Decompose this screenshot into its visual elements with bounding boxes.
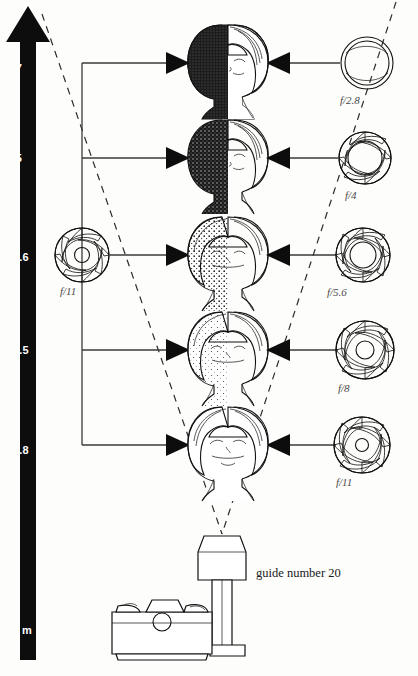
figure-canvas: 7 5 3.6 2.5 1.8 m <box>0 0 418 676</box>
face-row-3 <box>188 217 268 311</box>
arrow-left-row-3 <box>266 244 290 266</box>
scale-tick-3-6: 3.6 <box>13 251 29 263</box>
right-aperture-f8: f/8 <box>336 321 394 394</box>
right-aperture-label-5: f/11 <box>336 476 352 488</box>
camera-body <box>112 600 212 660</box>
arrow-right-row-3 <box>166 244 190 266</box>
face-row-1 <box>188 25 268 119</box>
right-aperture-f5-6: f/5.6 <box>327 228 390 298</box>
face-row-4 <box>188 312 268 406</box>
arrow-left-row-4 <box>266 339 290 361</box>
arrow-right-row-5 <box>166 434 190 456</box>
arrow-left-row-2 <box>266 147 290 169</box>
diagram-svg: 7 5 3.6 2.5 1.8 m <box>0 0 418 676</box>
right-connector-lines <box>266 52 340 456</box>
face-row-5 <box>188 407 268 501</box>
distance-scale: 7 5 3.6 2.5 1.8 m <box>6 6 50 660</box>
arrow-right-row-2 <box>166 147 190 169</box>
right-aperture-f2-8: f/2.8 <box>340 37 393 106</box>
right-aperture-f11: f/11 <box>334 417 390 488</box>
guide-number-label: guide number 20 <box>256 566 341 580</box>
scale-tick-5: 5 <box>16 152 22 164</box>
right-aperture-label-1: f/2.8 <box>340 94 360 106</box>
face-row-2 <box>188 120 268 214</box>
right-aperture-f4: f/4 <box>339 132 391 201</box>
arrow-right-row-4 <box>166 339 190 361</box>
scale-unit-label: m <box>22 624 32 636</box>
right-aperture-label-2: f/4 <box>345 189 357 201</box>
right-aperture-label-4: f/8 <box>338 382 350 394</box>
arrow-right-row-1 <box>166 52 190 74</box>
arrow-left-row-1 <box>266 52 290 74</box>
left-aperture-label: f/11 <box>60 285 76 297</box>
scale-tick-7: 7 <box>16 62 22 74</box>
right-aperture-label-3: f/5.6 <box>327 286 347 298</box>
scale-tick-2-5: 2.5 <box>13 344 29 356</box>
arrow-left-row-5 <box>266 434 290 456</box>
scale-tick-1-8: 1.8 <box>13 444 29 456</box>
